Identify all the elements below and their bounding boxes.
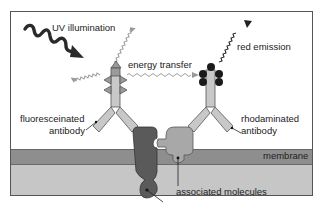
fluoresceinated-antibody-label-line1: fluoresceinated [20,113,84,124]
dark-associated-molecule [133,127,157,198]
energy-transfer-arrow-icon [127,72,199,78]
fret-illustration [0,0,324,210]
fluorescein-emission-rays-icon [73,29,133,81]
fluoresceinated-antibody-label-line2: antibody [49,125,85,136]
energy-transfer-label: energy transfer [128,59,192,70]
uv-illumination-label: UV illumination [52,22,115,33]
rhodaminated-antibody-label-line1: rhodaminated [241,113,299,124]
membrane-label: membrane [263,150,308,161]
light-associated-molecule [157,127,193,163]
fluoresceinated-antibody [93,61,138,132]
rhodaminated-antibody [188,70,233,132]
pointer-dots [95,121,233,129]
red-emission-label: red emission [237,41,291,52]
associated-molecules-label: associated molecules [176,186,267,197]
rhodaminated-antibody-label-line2: antibody [241,125,277,136]
